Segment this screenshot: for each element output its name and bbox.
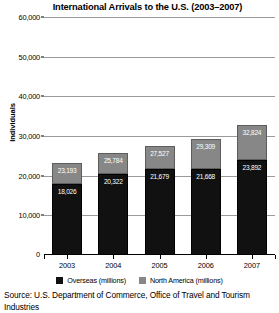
chart-figure: International Arrivals to the U.S. (2003… [0,0,279,313]
legend-item-north-america[interactable]: North America (millions) [139,276,223,285]
bar-segment-north-america-2004[interactable]: 25,784 [98,153,128,175]
gridline-50000 [44,57,275,58]
bar-segment-overseas-2005[interactable]: 21,679 [145,169,175,255]
y-tick-mark-50000 [41,56,44,57]
y-tick-mark-20000 [41,175,44,176]
legend-swatch-icon [139,277,146,284]
x-tick-mark-2003 [67,255,68,259]
x-tick-mark-2004 [113,255,114,259]
y-tick-label-10000: 10,000 [19,211,40,220]
bar-total-label-2005: 27,527 [146,150,174,157]
y-tick-mark-30000 [41,136,44,137]
bar-segment-north-america-2006[interactable]: 29,309 [191,139,221,169]
x-tick-label-2007: 2007 [232,261,272,270]
x-tick-mark-edge-1 [275,255,276,259]
x-tick-label-2006: 2006 [186,261,226,270]
y-tick-mark-60000 [41,17,44,18]
y-tick-label-50000: 50,000 [19,52,40,61]
y-tick-mark-40000 [41,96,44,97]
bar-overseas-label-2007: 23,892 [238,164,266,171]
plot-inner: 10,00020,00030,00040,00050,00060,000 23,… [44,17,275,255]
bar-overseas-label-2006: 21,668 [192,173,220,180]
bar-segment-overseas-2003[interactable]: 18,026 [52,184,82,256]
bar-segment-overseas-2006[interactable]: 21,668 [191,169,221,255]
x-tick-label-2005: 2005 [140,261,180,270]
legend-item-overseas[interactable]: Overseas (millions) [56,276,126,285]
x-tick-mark-edge-0 [44,255,45,259]
x-tick-mark-2006 [206,255,207,259]
bar-total-label-2003: 23,193 [53,167,81,174]
plot-area: 10,00020,00030,00040,00050,00060,000 23,… [44,17,275,255]
bar-total-label-2007: 32,824 [238,129,266,136]
bar-overseas-label-2005: 21,679 [146,173,174,180]
gridline-60000 [44,17,275,18]
bar-segment-north-america-2003[interactable]: 23,193 [52,163,82,183]
gridline-40000 [44,96,275,97]
bar-total-label-2004: 25,784 [99,157,127,164]
y-tick-label-40000: 40,000 [19,92,40,101]
x-tick-mark-2005 [160,255,161,259]
bar-overseas-label-2004: 20,322 [99,178,127,185]
source-note: Source: U.S. Department of Commerce, Off… [4,290,276,313]
y-tick-label-zero: 0 [36,250,40,259]
chart-legend: Overseas (millions)North America (millio… [0,276,279,285]
y-axis-label: Individuals [8,83,17,163]
y-tick-label-20000: 20,000 [19,171,40,180]
x-tick-label-2004: 2004 [93,261,133,270]
y-tick-label-30000: 30,000 [19,132,40,141]
y-tick-mark-10000 [41,215,44,216]
bar-segment-overseas-2007[interactable]: 23,892 [237,160,267,255]
bar-segment-overseas-2004[interactable]: 20,322 [98,174,128,255]
legend-label: Overseas (millions) [67,276,126,285]
legend-label: North America (millions) [150,276,223,285]
bar-segment-north-america-2005[interactable]: 27,527 [145,146,175,169]
x-tick-label-2003: 2003 [47,261,87,270]
legend-swatch-icon [56,277,63,284]
y-tick-label-60000: 60,000 [19,13,40,22]
chart-title: International Arrivals to the U.S. (2003… [0,2,279,12]
bar-overseas-label-2003: 18,026 [53,188,81,195]
x-tick-mark-2007 [252,255,253,259]
bar-total-label-2006: 29,309 [192,143,220,150]
bar-segment-north-america-2007[interactable]: 32,824 [237,125,267,160]
